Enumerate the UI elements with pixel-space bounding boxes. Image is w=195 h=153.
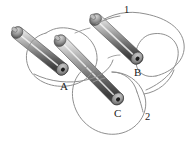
rod-b — [88, 12, 146, 67]
rod-label-b: B — [134, 67, 141, 78]
physics-diagram-figure: A B C 1 2 — [0, 0, 195, 153]
wire-label-2: 2 — [145, 112, 150, 123]
rod-label-c: C — [114, 108, 121, 119]
diagram-canvas — [0, 0, 195, 153]
wire-label-1: 1 — [124, 5, 129, 16]
rod-label-a: A — [60, 81, 68, 92]
